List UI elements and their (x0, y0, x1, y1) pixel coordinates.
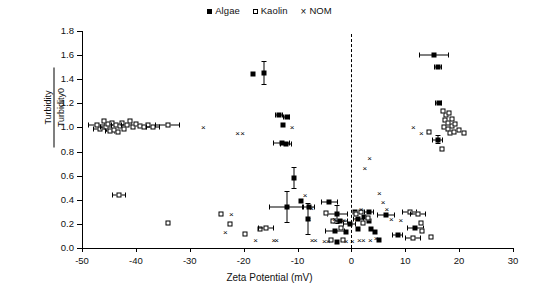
data-point-kaolin (127, 119, 132, 124)
y-axis-tick (77, 224, 82, 225)
data-point-nom: × (366, 154, 373, 161)
data-point-kaolin (453, 121, 458, 126)
legend-label-algae: Algae (215, 5, 240, 16)
data-point-nom: × (331, 216, 338, 223)
data-point-nom: × (239, 130, 246, 137)
x-axis-tick (190, 248, 191, 252)
data-point-nom: × (361, 165, 368, 172)
data-point-algae (432, 53, 437, 58)
data-point-nom: × (353, 216, 360, 223)
y-axis-tick-label: 0.2 (48, 218, 74, 229)
chart-legend: Algae Kaolin ×NOM (0, 4, 539, 16)
data-point-kaolin (446, 110, 451, 115)
data-point-nom: × (200, 124, 207, 131)
data-point-algae (284, 205, 289, 210)
x-axis-tick (351, 248, 352, 252)
data-point-algae (343, 230, 348, 235)
x-axis-tick (244, 248, 245, 252)
data-point-kaolin (416, 212, 421, 217)
data-point-kaolin (419, 229, 424, 234)
data-point-algae (335, 239, 340, 244)
data-point-nom: × (373, 235, 380, 242)
data-point-nom: × (222, 229, 229, 236)
y-axis-tick-label: 1.0 (48, 121, 74, 132)
data-point-nom: × (397, 217, 404, 224)
x-axis-tick-label: 20 (439, 255, 479, 266)
data-point-kaolin (165, 123, 170, 128)
data-point-algae (435, 137, 440, 142)
data-point-nom: × (289, 124, 296, 131)
data-point-nom: × (308, 205, 315, 212)
data-point-algae (355, 226, 360, 231)
data-point-nom: × (383, 206, 390, 213)
y-axis-tick (77, 248, 82, 249)
data-point-nom: × (312, 236, 319, 243)
data-point-kaolin (439, 147, 444, 152)
data-point-kaolin (418, 220, 423, 225)
x-axis-tick-label: -50 (62, 255, 102, 266)
data-point-algae (333, 229, 338, 234)
y-axis-tick (77, 152, 82, 153)
data-point-nom: × (388, 216, 395, 223)
x-axis-tick (298, 248, 299, 252)
data-point-algae (436, 101, 441, 106)
x-axis-title: Zeta Potential (mV) (0, 272, 539, 283)
data-point-algae (281, 123, 286, 128)
x-axis-tick-label: 30 (493, 255, 533, 266)
x-axis-tick-label: -40 (116, 255, 156, 266)
y-axis-tick-label: 0.8 (48, 146, 74, 157)
y-axis-tick (77, 176, 82, 177)
x-axis-tick-label: 10 (385, 255, 425, 266)
data-point-kaolin (117, 192, 122, 197)
legend-item-kaolin: Kaolin (253, 5, 288, 16)
y-axis-tick-label: 1.4 (48, 73, 74, 84)
plot-area: ××××××××××××××××××××××××××××××××××× (82, 31, 513, 248)
x-axis-tick (405, 248, 406, 252)
data-point-nom: × (349, 237, 356, 244)
y-axis-tick (77, 127, 82, 128)
cross-icon: × (300, 9, 306, 14)
data-point-kaolin (426, 130, 431, 135)
data-point-nom: × (360, 236, 367, 243)
data-point-algae (284, 114, 289, 119)
y-axis-tick-label: 1.2 (48, 97, 74, 108)
data-point-kaolin (218, 212, 223, 217)
data-point-nom: × (325, 237, 332, 244)
data-point-nom: × (358, 206, 365, 213)
data-point-kaolin (323, 211, 328, 216)
data-point-kaolin (227, 221, 232, 226)
x-axis-tick (136, 248, 137, 252)
x-axis-tick (513, 248, 514, 252)
y-axis-tick (77, 200, 82, 201)
data-point-nom: × (273, 236, 280, 243)
data-point-algae (277, 113, 282, 118)
legend-item-algae: Algae (207, 5, 240, 16)
data-point-algae (292, 176, 297, 181)
legend-label-kaolin: Kaolin (261, 5, 288, 16)
y-axis-tick-label: 0.4 (48, 194, 74, 205)
data-point-nom: × (302, 191, 309, 198)
x-axis-tick-label: 0 (331, 255, 371, 266)
data-point-algae (367, 209, 372, 214)
data-point-nom: × (340, 217, 347, 224)
x-axis-tick (82, 248, 83, 252)
data-point-kaolin (166, 220, 171, 225)
data-point-algae (395, 232, 400, 237)
legend-item-nom: ×NOM (300, 5, 331, 16)
data-point-kaolin (366, 215, 371, 220)
data-point-kaolin (428, 235, 433, 240)
y-axis-tick-label: 0.6 (48, 170, 74, 181)
y-axis-tick-label: 1.8 (48, 25, 74, 36)
data-point-algae (327, 200, 332, 205)
data-point-kaolin (410, 236, 415, 241)
y-axis-tick-label: 1.6 (48, 49, 74, 60)
data-point-nom: × (418, 130, 425, 137)
open-square-icon (253, 9, 258, 14)
x-axis-tick-label: -10 (278, 255, 318, 266)
y-axis-tick (77, 103, 82, 104)
data-point-kaolin (263, 225, 268, 230)
data-point-kaolin (115, 130, 120, 135)
data-point-kaolin (243, 231, 248, 236)
data-point-algae (347, 221, 352, 226)
data-point-nom: × (252, 236, 259, 243)
